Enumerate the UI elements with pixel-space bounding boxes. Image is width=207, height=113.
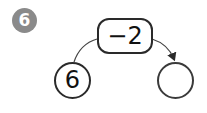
answer-circle[interactable] <box>157 62 194 99</box>
input-circle: 6 <box>54 62 91 99</box>
operation-box: −2 <box>97 18 153 54</box>
problem-number-badge: 6 <box>12 8 37 33</box>
output-arrow <box>152 39 174 59</box>
input-connector-line <box>74 39 97 62</box>
